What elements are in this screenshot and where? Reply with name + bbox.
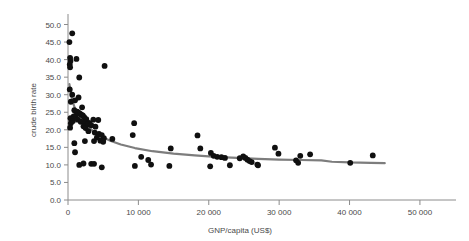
data-point — [132, 163, 138, 169]
data-point — [67, 87, 73, 93]
axes — [68, 14, 456, 200]
data-point — [81, 161, 87, 167]
data-point — [272, 145, 278, 151]
data-point — [79, 104, 85, 110]
y-tick-label: 20.0 — [45, 126, 61, 135]
x-axis-tick-labels: 010 00020 00030 00040 00050 000 — [66, 208, 433, 217]
y-tick-label: 50.0 — [45, 21, 61, 30]
data-point — [148, 162, 154, 168]
y-tick-label: 10.0 — [45, 161, 61, 170]
data-point — [295, 160, 301, 166]
trend-curve — [69, 84, 384, 163]
trend-line — [69, 84, 384, 163]
data-point — [99, 164, 105, 170]
tick-marks — [64, 25, 420, 205]
data-point — [102, 63, 108, 69]
data-point — [91, 138, 97, 144]
data-point — [72, 149, 78, 155]
data-point — [138, 154, 144, 160]
y-tick-label: 35.0 — [45, 73, 61, 82]
y-tick-label: 30.0 — [45, 91, 61, 100]
data-point — [130, 132, 136, 138]
data-point — [227, 162, 233, 168]
x-tick-label: 20 000 — [197, 208, 222, 217]
y-tick-label: 15.0 — [45, 143, 61, 152]
y-tick-label: 40.0 — [45, 56, 61, 65]
data-point — [276, 151, 282, 157]
scatter-plot: 0.05.010.015.020.025.030.035.040.045.050… — [0, 0, 469, 241]
data-point — [67, 39, 73, 45]
data-point — [197, 146, 203, 152]
data-point — [131, 120, 137, 126]
data-point — [297, 153, 303, 159]
data-point — [109, 136, 115, 142]
data-point — [67, 64, 73, 70]
y-tick-label: 5.0 — [50, 178, 62, 187]
data-point — [222, 155, 228, 161]
data-point — [93, 124, 99, 130]
data-point — [91, 161, 97, 167]
x-tick-label: 50 000 — [408, 208, 433, 217]
data-point — [166, 163, 172, 169]
data-point — [69, 92, 75, 98]
data-point — [168, 146, 174, 152]
x-tick-label: 40 000 — [337, 208, 362, 217]
data-point — [195, 133, 201, 139]
data-point — [69, 30, 75, 36]
data-point — [255, 162, 261, 168]
data-point — [347, 160, 353, 166]
y-axis-title: crude birth rate — [29, 83, 38, 137]
data-points — [67, 30, 376, 170]
y-axis-tick-labels: 0.05.010.015.020.025.030.035.040.045.050… — [45, 21, 61, 205]
data-point — [86, 128, 92, 134]
data-point — [370, 153, 376, 159]
data-point — [207, 163, 213, 169]
data-point — [68, 99, 74, 105]
y-tick-label: 0.0 — [50, 196, 62, 205]
y-tick-label: 25.0 — [45, 108, 61, 117]
data-point — [74, 56, 80, 62]
data-point — [249, 159, 255, 165]
x-tick-label: 10 000 — [126, 208, 151, 217]
data-point — [76, 75, 82, 81]
y-tick-label: 45.0 — [45, 38, 61, 47]
data-point — [71, 140, 77, 146]
x-axis-title: GNP/capita (US$) — [208, 226, 272, 235]
chart-container: 0.05.010.015.020.025.030.035.040.045.050… — [0, 0, 469, 241]
data-point — [307, 151, 313, 157]
x-tick-label: 30 000 — [267, 208, 292, 217]
data-point — [100, 139, 106, 145]
data-point — [82, 138, 88, 144]
x-tick-label: 0 — [66, 208, 71, 217]
data-point — [95, 117, 101, 123]
data-point — [67, 125, 73, 131]
